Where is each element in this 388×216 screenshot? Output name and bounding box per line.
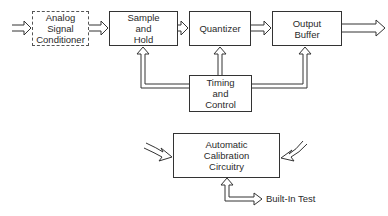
block-label-line: Analog <box>46 12 76 23</box>
timing-to-quantizer-arrow-icon <box>214 47 226 75</box>
block-label-line: and <box>213 88 229 99</box>
block-label-line: Timing <box>206 77 234 88</box>
calibration-block: Automatic Calibration Circuitry <box>173 133 280 178</box>
block-label-line: Control <box>205 99 236 110</box>
block-label-line: Conditioner <box>36 34 85 45</box>
timing-to-output-buffer-arrow-icon <box>252 47 311 88</box>
block-label-line: Calibration <box>204 150 249 161</box>
block-label-line: Buffer <box>294 29 319 40</box>
signal-conditioner-block: Analog Signal Conditioner <box>32 11 89 46</box>
timing-to-sample-hold-arrow-icon <box>137 47 189 88</box>
output-arrow-icon <box>342 20 385 36</box>
arrow-icon <box>89 21 108 35</box>
block-label-line: Output <box>293 18 322 29</box>
block-label-line: Hold <box>134 34 154 45</box>
timing-control-block: Timing and Control <box>189 75 252 112</box>
block-label-line: Sample <box>127 12 159 23</box>
arrow-icon <box>251 21 271 35</box>
arrow-icon <box>178 21 188 35</box>
quantizer-block: Quantizer <box>189 11 251 46</box>
built-in-test-label: Built-In Test <box>266 193 315 204</box>
left-curved-input-arrow-icon <box>144 143 172 161</box>
right-curved-input-arrow-icon <box>281 141 307 161</box>
block-label-line: Signal <box>47 23 73 34</box>
input-arrow-icon <box>12 21 31 35</box>
block-label-line: Quantizer <box>199 23 240 34</box>
block-label-line: and <box>136 23 152 34</box>
block-label-line: Automatic <box>205 139 247 150</box>
sample-hold-block: Sample and Hold <box>109 11 178 46</box>
block-label-line: Circuitry <box>209 161 244 172</box>
built-in-test-arrow-icon <box>221 178 262 205</box>
output-buffer-block: Output Buffer <box>272 11 342 46</box>
